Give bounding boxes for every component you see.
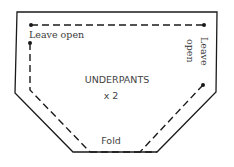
marker-dot-left: [28, 41, 32, 45]
label-leave-open-top: Leave open: [29, 29, 84, 40]
stitch-line-left: [30, 43, 90, 152]
label-open-right: open: [185, 39, 196, 63]
marker-dot-right: [201, 83, 205, 87]
marker-dot-top-right: [202, 23, 206, 27]
stitch-lines: [30, 25, 204, 152]
marker-dot-top-left: [29, 23, 33, 27]
stitch-line-right: [140, 85, 203, 152]
pattern-diagram: Leave open Leave open UNDERPANTS x 2 Fol…: [0, 0, 234, 167]
label-fold: Fold: [101, 135, 121, 146]
pattern-title: UNDERPANTS: [85, 74, 150, 85]
label-leave-right: Leave: [199, 37, 210, 66]
pattern-quantity: x 2: [104, 90, 119, 101]
